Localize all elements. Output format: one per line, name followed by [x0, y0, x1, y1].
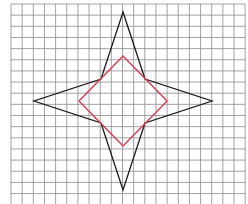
grid-diagram [0, 0, 248, 204]
four-point-star-shape [34, 12, 212, 190]
diagram-canvas [0, 0, 248, 204]
red-square-shape [79, 56, 167, 146]
